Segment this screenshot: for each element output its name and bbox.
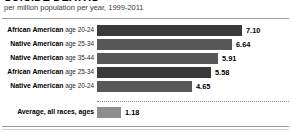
- bar-row-2: Native American age 25-346.64: [0, 38, 292, 51]
- bar: [97, 25, 242, 36]
- bar-value-label: 5.91: [222, 55, 236, 62]
- bar-row-5: Native American age 20-244.65: [0, 80, 292, 93]
- bar-row-1: African American age 20-247.10: [0, 24, 292, 37]
- bar-row-label: African American age 20-24: [0, 27, 97, 34]
- bar-value-label: 1.18: [125, 109, 139, 116]
- bar: [97, 81, 192, 92]
- footer-divider-secondary: [2, 129, 289, 130]
- bar-row-4: African American age 25-345.58: [0, 66, 292, 79]
- bar-value-label: 6.64: [236, 41, 250, 48]
- bar: [97, 107, 121, 118]
- bar-row-label: Average, all races, ages: [0, 109, 97, 116]
- average-separator: [97, 101, 289, 102]
- bar-value-label: 5.58: [215, 69, 229, 76]
- bar-row-label: Native American age 20-24: [0, 83, 97, 90]
- footer-divider: [2, 126, 289, 127]
- bar: [97, 53, 218, 64]
- bar-row-average: Average, all races, ages1.18: [0, 106, 292, 119]
- bar-row-label: Native American age 25-34: [0, 41, 97, 48]
- chart-title: SUICIDE DEATHS: [4, 0, 99, 1]
- bar-chart: SUICIDE DEATHS per million population pe…: [0, 0, 292, 133]
- bar: [97, 67, 211, 78]
- bar-row-3: Native American age 35-445.91: [0, 52, 292, 65]
- header-divider: [2, 18, 289, 19]
- bar-row-label: Native American age 35-44: [0, 55, 97, 62]
- bar-value-label: 7.10: [246, 27, 260, 34]
- bar-row-label: African American age 25-34: [0, 69, 97, 76]
- bar-value-label: 4.65: [196, 83, 210, 90]
- bar: [97, 39, 232, 50]
- chart-subtitle: per million population per year, 1999-20…: [4, 3, 144, 12]
